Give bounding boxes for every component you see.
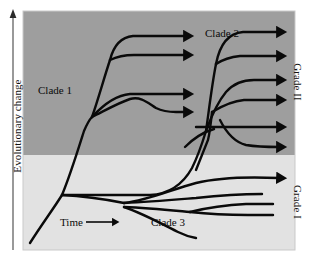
grade-2-label: Grade II [292,42,304,122]
y-axis-label: Evolutionary change [11,61,23,191]
evolutionary-diagram-figure: Evolutionary change Grade II Grade I Cla… [0,0,318,260]
clade-1-label: Clade 1 [38,84,72,96]
grade-1-band [23,155,295,250]
y-axis-arrow-icon [10,9,17,18]
time-axis-label: Time [60,216,83,228]
grade-1-label: Grade I [292,166,304,238]
clade-2-label: Clade 2 [205,27,239,39]
clade-3-label: Clade 3 [151,216,185,228]
